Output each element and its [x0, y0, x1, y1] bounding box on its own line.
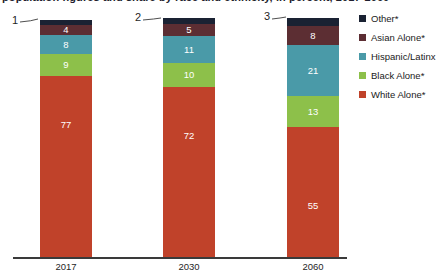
legend-swatch-black-alone-icon	[359, 72, 366, 79]
bar-group-2060[interactable]: 8 21 13 55	[287, 18, 339, 258]
legend-label-white-alone: White Alone*	[371, 90, 425, 100]
bar-segment-hispanic[interactable]: 11	[163, 36, 215, 63]
bar-segment-white[interactable]: 72	[163, 87, 215, 258]
x-axis-label-2030: 2030	[163, 261, 215, 272]
stacked-bar-chart: population figures and share by race and…	[0, 0, 444, 280]
bar-segment-other[interactable]	[287, 18, 339, 26]
bar-segment-black[interactable]: 13	[287, 96, 339, 127]
bar-segment-asian[interactable]: 8	[287, 26, 339, 45]
legend-swatch-other-icon	[359, 15, 366, 22]
bar-group-2017[interactable]: 4 8 9 77	[40, 20, 92, 258]
bar-segment-hispanic[interactable]: 8	[40, 35, 92, 54]
callout-number-3: 3	[264, 10, 270, 22]
x-axis-line	[13, 257, 347, 259]
legend-item-other[interactable]: Other*	[359, 9, 444, 28]
bar-stack: 4 8 9 77	[40, 20, 92, 258]
legend-item-hispanic-latinx[interactable]: Hispanic/Latinx	[359, 47, 444, 66]
bar-segment-white[interactable]: 77	[40, 76, 92, 258]
plot-area: 1 2 3 4 8 9 77 20	[0, 0, 355, 280]
legend-swatch-hispanic-latinx-icon	[359, 53, 366, 60]
legend-item-black-alone[interactable]: Black Alone*	[359, 66, 444, 85]
x-axis-label-2060: 2060	[287, 261, 339, 272]
legend-swatch-white-alone-icon	[359, 91, 366, 98]
legend-label-black-alone: Black Alone*	[371, 71, 424, 81]
legend-item-asian-alone[interactable]: Asian Alone*	[359, 28, 444, 47]
callout-number-2: 2	[135, 11, 141, 23]
x-axis-label-2017: 2017	[40, 261, 92, 272]
legend-item-white-alone[interactable]: White Alone*	[359, 85, 444, 104]
bar-segment-hispanic[interactable]: 21	[287, 45, 339, 96]
bar-stack: 5 11 10 72	[163, 18, 215, 258]
legend-label-asian-alone: Asian Alone*	[371, 33, 425, 43]
bar-segment-black[interactable]: 10	[163, 63, 215, 87]
bar-segment-asian[interactable]: 5	[163, 24, 215, 36]
bar-segment-asian[interactable]: 4	[40, 25, 92, 35]
bar-group-2030[interactable]: 5 11 10 72	[163, 18, 215, 258]
legend-label-other: Other*	[371, 14, 398, 24]
chart-legend: Other* Asian Alone* Hispanic/Latinx Blac…	[359, 9, 444, 104]
legend-swatch-asian-alone-icon	[359, 34, 366, 41]
callout-number-1: 1	[12, 14, 18, 26]
legend-label-hispanic-latinx: Hispanic/Latinx	[371, 52, 435, 62]
bar-segment-white[interactable]: 55	[287, 127, 339, 258]
bar-stack: 8 21 13 55	[287, 18, 339, 258]
bar-segment-black[interactable]: 9	[40, 54, 92, 76]
